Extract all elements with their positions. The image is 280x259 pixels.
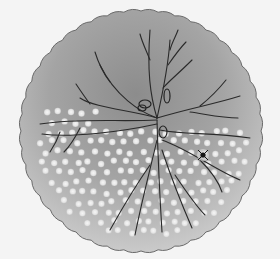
dot xyxy=(79,188,85,194)
dot xyxy=(145,218,151,224)
dot xyxy=(68,169,74,175)
dot xyxy=(108,198,114,204)
dot xyxy=(78,149,84,155)
dot xyxy=(176,168,182,174)
dot xyxy=(62,159,68,165)
dot xyxy=(111,180,117,186)
dot xyxy=(141,149,147,155)
dot xyxy=(200,187,206,193)
dot xyxy=(181,159,187,165)
dot xyxy=(201,169,207,175)
dot xyxy=(92,108,98,114)
dot xyxy=(128,168,134,174)
dot xyxy=(123,158,129,164)
dot xyxy=(39,158,45,164)
dot xyxy=(87,200,93,206)
dot xyxy=(51,160,57,166)
dot xyxy=(111,157,117,163)
dot xyxy=(84,220,90,226)
dot xyxy=(151,170,157,176)
dot xyxy=(84,158,90,164)
dot xyxy=(124,220,130,226)
dot xyxy=(115,227,121,233)
dot xyxy=(204,198,210,204)
dot xyxy=(152,188,158,194)
dot xyxy=(236,147,242,153)
dot xyxy=(214,128,220,134)
dot xyxy=(68,109,74,115)
neuron-illustration xyxy=(0,0,280,259)
dot xyxy=(45,131,51,137)
dot xyxy=(218,199,224,205)
dot xyxy=(138,128,144,134)
dot xyxy=(98,137,104,143)
dot xyxy=(61,197,67,203)
dot xyxy=(133,138,139,144)
dot xyxy=(174,227,180,233)
dot xyxy=(133,159,139,165)
dot xyxy=(106,210,112,216)
dot xyxy=(117,189,123,195)
dot xyxy=(218,158,224,164)
dot xyxy=(103,191,109,197)
dot xyxy=(193,220,199,226)
dot xyxy=(145,201,151,207)
dot xyxy=(44,109,50,115)
dot xyxy=(195,180,201,186)
dot xyxy=(78,110,84,116)
dot xyxy=(67,148,73,154)
dot xyxy=(163,231,169,237)
dot xyxy=(76,160,82,166)
dot xyxy=(148,179,154,185)
dot xyxy=(188,129,194,135)
dot xyxy=(153,209,159,215)
dot xyxy=(171,137,177,143)
dot xyxy=(104,150,110,156)
dot xyxy=(222,127,228,133)
dot xyxy=(231,158,237,164)
dot xyxy=(160,220,166,226)
dot xyxy=(100,179,106,185)
dot xyxy=(42,150,48,156)
dot xyxy=(127,150,133,156)
dark-spot-marker xyxy=(197,149,209,161)
dot xyxy=(66,209,72,215)
dot xyxy=(87,137,93,143)
dot xyxy=(171,200,177,206)
dot xyxy=(118,167,124,173)
dot xyxy=(163,189,169,195)
dot xyxy=(210,189,216,195)
dot xyxy=(128,208,134,214)
dot xyxy=(42,168,48,174)
dot xyxy=(164,151,170,157)
dot xyxy=(168,158,174,164)
dot xyxy=(103,128,109,134)
dot xyxy=(182,137,188,143)
dot xyxy=(74,140,80,146)
dot xyxy=(150,228,156,234)
dot xyxy=(229,141,235,147)
dot xyxy=(204,140,210,146)
dot xyxy=(218,178,224,184)
dot xyxy=(85,177,91,183)
dot xyxy=(98,220,104,226)
dot xyxy=(225,150,231,156)
dot xyxy=(104,169,110,175)
dot xyxy=(145,157,151,163)
dot xyxy=(79,210,85,216)
dot xyxy=(92,209,98,215)
dot xyxy=(75,201,81,207)
dot xyxy=(211,210,217,216)
dot xyxy=(241,159,247,165)
dot xyxy=(212,151,218,157)
dot xyxy=(54,147,60,153)
dot xyxy=(194,139,200,145)
dot xyxy=(60,137,66,143)
dot xyxy=(224,187,230,193)
dot xyxy=(243,139,249,145)
dot xyxy=(120,138,126,144)
dot xyxy=(56,187,62,193)
dot xyxy=(237,130,243,136)
dot xyxy=(164,210,170,216)
dot xyxy=(121,179,127,185)
